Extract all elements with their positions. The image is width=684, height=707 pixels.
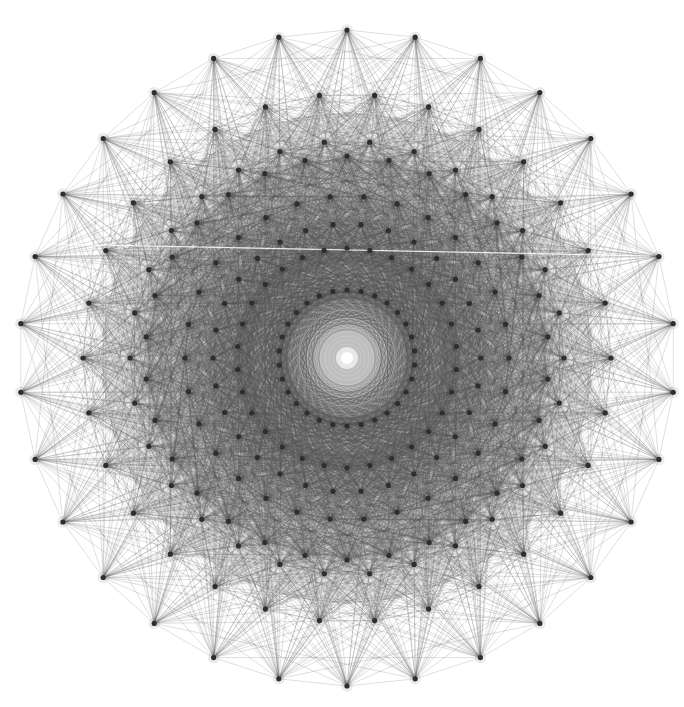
vertex-dot bbox=[212, 584, 217, 589]
vertex-dot bbox=[478, 355, 483, 360]
vertex-dot bbox=[249, 300, 254, 305]
vertex-dot bbox=[412, 363, 417, 368]
vertex-dot bbox=[453, 168, 458, 173]
vertex-dot bbox=[132, 310, 137, 315]
vertex-dot bbox=[358, 489, 363, 494]
vertex-dot bbox=[304, 410, 309, 415]
vertex-dot bbox=[101, 575, 106, 580]
polytope-diagram bbox=[0, 0, 684, 707]
vertex-dot bbox=[411, 239, 416, 244]
vertex-dot bbox=[520, 483, 525, 488]
vertex-dot bbox=[168, 552, 173, 557]
vertex-dot bbox=[386, 553, 391, 558]
vertex-dot bbox=[280, 334, 285, 339]
vertex-dot bbox=[671, 321, 676, 326]
vertex-dot bbox=[168, 159, 173, 164]
vertex-dot bbox=[386, 228, 391, 233]
vertex-dot bbox=[403, 389, 408, 394]
vertex-dot bbox=[18, 390, 23, 395]
vertex-dot bbox=[182, 355, 187, 360]
vertex-dot bbox=[152, 90, 157, 95]
vertex-dot bbox=[434, 256, 439, 261]
vertex-dot bbox=[586, 248, 591, 253]
vertex-dot bbox=[286, 389, 291, 394]
vertex-dot bbox=[557, 401, 562, 406]
vertex-dot bbox=[170, 254, 175, 259]
vertex-dot bbox=[249, 410, 254, 415]
vertex-dot bbox=[236, 168, 241, 173]
vertex-dot bbox=[322, 571, 327, 576]
vertex-dot bbox=[169, 483, 174, 488]
vertex-dot bbox=[328, 194, 333, 199]
vertex-dot bbox=[235, 367, 240, 372]
vertex-dot bbox=[367, 571, 372, 576]
vertex-dot bbox=[344, 287, 349, 292]
vertex-dot bbox=[211, 655, 216, 660]
vertex-dot bbox=[344, 153, 349, 158]
vertex-dot bbox=[495, 220, 500, 225]
vertex-dot bbox=[519, 254, 524, 259]
vertex-dot bbox=[127, 355, 132, 360]
vertex-dot bbox=[262, 171, 267, 176]
vertex-dot bbox=[521, 159, 526, 164]
vertex-dot bbox=[453, 476, 458, 481]
vertex-dot bbox=[60, 519, 65, 524]
vertex-dot bbox=[359, 289, 364, 294]
vertex-dot bbox=[426, 282, 431, 287]
vertex-dot bbox=[520, 228, 525, 233]
vertex-dot bbox=[490, 194, 495, 199]
vertex-dot bbox=[213, 451, 218, 456]
vertex-dot bbox=[344, 27, 349, 32]
vertex-dot bbox=[449, 389, 454, 394]
vertex-dot bbox=[372, 93, 377, 98]
vertex-dot bbox=[152, 293, 157, 298]
vertex-dot bbox=[537, 621, 542, 626]
vertex-dot bbox=[211, 56, 216, 61]
vertex-dot bbox=[372, 293, 377, 298]
vertex-dot bbox=[588, 575, 593, 580]
vertex-dot bbox=[280, 376, 285, 381]
vertex-dot bbox=[294, 201, 299, 206]
vertex-dot bbox=[467, 410, 472, 415]
vertex-dot bbox=[304, 300, 309, 305]
vertex-dot bbox=[322, 463, 327, 468]
vertex-dot bbox=[277, 562, 282, 567]
vertex-dot bbox=[386, 158, 391, 163]
vertex-dot bbox=[236, 277, 241, 282]
vertex-dot bbox=[236, 476, 241, 481]
vertex-dot bbox=[603, 301, 608, 306]
vertex-dot bbox=[322, 248, 327, 253]
vertex-dot bbox=[33, 457, 38, 462]
vertex-dot bbox=[194, 491, 199, 496]
vertex-dot bbox=[277, 348, 282, 353]
vertex-dot bbox=[395, 509, 400, 514]
vertex-dot bbox=[263, 282, 268, 287]
vertex-dot bbox=[521, 552, 526, 557]
vertex-dot bbox=[389, 255, 394, 260]
vertex-dot bbox=[86, 301, 91, 306]
vertex-dot bbox=[344, 465, 349, 470]
vertex-dot bbox=[409, 334, 414, 339]
vertex-dot bbox=[395, 201, 400, 206]
vertex-dot bbox=[434, 455, 439, 460]
vertex-dot bbox=[196, 421, 201, 426]
vertex-dot bbox=[263, 607, 268, 612]
vertex-dot bbox=[322, 140, 327, 145]
vertex-dot bbox=[361, 517, 366, 522]
vertex-dot bbox=[427, 171, 432, 176]
e8-petrie-projection-figure: E8 polytope Petrie polygon projection bbox=[0, 0, 684, 707]
vertex-dot bbox=[286, 321, 291, 326]
vertex-dot bbox=[409, 376, 414, 381]
vertex-dot bbox=[671, 390, 676, 395]
vertex-dot bbox=[476, 328, 481, 333]
center-dot bbox=[341, 352, 353, 364]
vertex-dot bbox=[537, 293, 542, 298]
vertex-dot bbox=[629, 519, 634, 524]
vertex-dot bbox=[395, 401, 400, 406]
vertex-dot bbox=[440, 300, 445, 305]
vertex-dot bbox=[303, 483, 308, 488]
vertex-dot bbox=[236, 235, 241, 240]
vertex-dot bbox=[276, 676, 281, 681]
vertex-dot bbox=[33, 254, 38, 259]
vertex-dot bbox=[490, 517, 495, 522]
